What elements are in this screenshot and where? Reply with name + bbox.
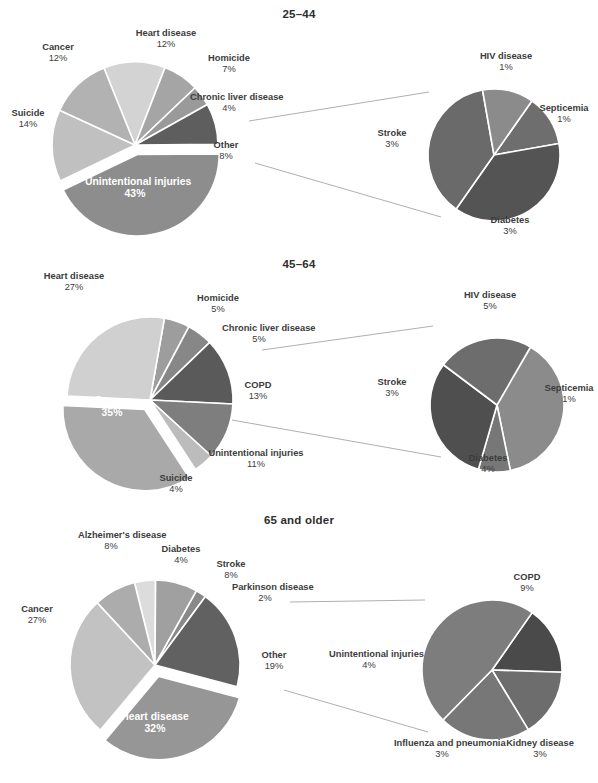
label-heart-disease: Heart disease12% bbox=[121, 28, 211, 50]
label-text: HIV disease bbox=[464, 290, 516, 300]
label-copd: COPD9% bbox=[499, 572, 555, 594]
label-suicide: Suicide14% bbox=[1, 108, 55, 130]
label-text: Stroke bbox=[217, 559, 246, 569]
label-text: Unintentional injuries bbox=[329, 649, 424, 659]
label-text: Alzheimer's disease bbox=[78, 530, 167, 540]
label-percent: 1% bbox=[538, 394, 598, 405]
label-percent: 12% bbox=[27, 53, 89, 64]
label-hiv-disease: HIV disease5% bbox=[450, 290, 530, 312]
label-text: COPD bbox=[514, 572, 541, 582]
main-pie-45-64-slice-heart-disease[interactable] bbox=[67, 317, 164, 400]
label-percent: 1% bbox=[468, 62, 544, 73]
label-percent: 9% bbox=[499, 583, 555, 594]
label-text: Cancer bbox=[21, 604, 53, 614]
label-text: Influenza and pneumonia bbox=[394, 738, 506, 748]
label-text: Diabetes bbox=[469, 453, 508, 463]
label-unintentional-injuries: Unintentional injuries43% bbox=[85, 176, 185, 201]
label-percent: 43% bbox=[85, 188, 185, 200]
label-percent: 5% bbox=[450, 301, 530, 312]
label-chronic-liver-disease: Chronic liver disease5% bbox=[222, 323, 296, 345]
label-kidney-disease: Kidney disease3% bbox=[492, 738, 588, 760]
label-stroke: Stroke3% bbox=[366, 128, 418, 150]
label-percent: 8% bbox=[202, 151, 250, 162]
label-percent: 4% bbox=[190, 103, 268, 114]
leader-line-other-top bbox=[290, 600, 425, 602]
label-copd: COPD13% bbox=[232, 380, 284, 402]
leader-line-other-bottom bbox=[255, 163, 441, 217]
label-percent: 3% bbox=[394, 749, 490, 760]
label-text: Cancer bbox=[94, 395, 129, 406]
label-percent: 4% bbox=[455, 464, 521, 475]
chart-panel-65-and-older: 65 and older Alzheimer's disease8%Diabet… bbox=[0, 510, 598, 783]
chart-panel-45-64: 45–64 Heart disease27%Homicide5%Chronic … bbox=[0, 255, 598, 510]
label-percent: 3% bbox=[492, 749, 588, 760]
label-text: Kidney disease bbox=[506, 738, 574, 748]
label-percent: 19% bbox=[249, 661, 299, 672]
label-text: Heart disease bbox=[136, 28, 196, 38]
label-percent: 3% bbox=[366, 139, 418, 150]
label-septicemia: Septicemia1% bbox=[530, 103, 598, 125]
label-suicide: Suicide4% bbox=[148, 473, 204, 495]
label-text: Suicide bbox=[11, 108, 44, 118]
label-percent: 4% bbox=[151, 555, 211, 566]
label-stroke: Stroke3% bbox=[366, 377, 418, 399]
label-percent: 27% bbox=[8, 615, 66, 626]
label-unintentional-injuries: Unintentional injuries4% bbox=[329, 649, 409, 671]
label-stroke-main: Stroke8% bbox=[203, 559, 259, 581]
label-percent: 2% bbox=[232, 593, 298, 604]
label-percent: 7% bbox=[198, 64, 260, 75]
label-percent: 11% bbox=[196, 459, 316, 470]
label-text: HIV disease bbox=[480, 51, 532, 61]
label-percent: 8% bbox=[203, 570, 259, 581]
label-hiv-disease: HIV disease1% bbox=[468, 51, 544, 73]
label-percent: 14% bbox=[1, 119, 55, 130]
label-percent: 35% bbox=[72, 407, 152, 419]
label-unintentional-injuries: Unintentional injuries11% bbox=[196, 448, 316, 470]
label-homicide: Homicide7% bbox=[198, 53, 260, 75]
label-percent: 1% bbox=[530, 114, 598, 125]
label-cancer: Cancer35% bbox=[72, 395, 152, 420]
label-alzheimers-disease: Alzheimer's disease8% bbox=[78, 530, 144, 552]
label-text: Chronic liver disease bbox=[190, 92, 284, 102]
label-text: Parkinson disease bbox=[232, 582, 314, 592]
label-septicemia: Septicemia1% bbox=[538, 383, 598, 405]
label-diabetes: Diabetes4% bbox=[455, 453, 521, 475]
label-text: Stroke bbox=[378, 128, 407, 138]
label-diabetes: Diabetes3% bbox=[478, 215, 542, 237]
label-influenza-and-pneumonia: Influenza and pneumonia3% bbox=[394, 738, 490, 760]
label-percent: 12% bbox=[121, 39, 211, 50]
label-other: Other19% bbox=[249, 650, 299, 672]
label-text: Heart disease bbox=[121, 711, 189, 722]
label-percent: 5% bbox=[222, 334, 296, 345]
label-text: Unintentional injuries bbox=[208, 448, 303, 458]
chart-panel-25-44: 25–44 Heart disease12%Cancer12%Suicide14… bbox=[0, 0, 598, 255]
label-percent: 4% bbox=[148, 484, 204, 495]
label-percent: 13% bbox=[232, 391, 284, 402]
label-text: Unintentional injuries bbox=[85, 176, 191, 187]
leader-line-other-bottom bbox=[284, 690, 428, 732]
label-text: Chronic liver disease bbox=[222, 323, 316, 333]
label-percent: 4% bbox=[329, 660, 409, 671]
label-percent: 3% bbox=[478, 226, 542, 237]
label-chronic-liver-disease: Chronic liver disease4% bbox=[190, 92, 268, 114]
label-text: Other bbox=[262, 650, 287, 660]
label-text: Heart disease bbox=[44, 271, 104, 281]
label-text: Homicide bbox=[197, 293, 239, 303]
label-heart-disease: Heart disease32% bbox=[110, 711, 200, 736]
label-percent: 5% bbox=[186, 304, 250, 315]
label-homicide: Homicide5% bbox=[186, 293, 250, 315]
label-other: Other8% bbox=[202, 140, 250, 162]
label-percent: 32% bbox=[110, 723, 200, 735]
label-diabetes-main: Diabetes4% bbox=[151, 544, 211, 566]
label-text: COPD bbox=[245, 380, 272, 390]
label-percent: 3% bbox=[366, 388, 418, 399]
label-percent: 27% bbox=[28, 282, 120, 293]
label-text: Cancer bbox=[42, 42, 74, 52]
label-text: Septicemia bbox=[544, 383, 593, 393]
label-heart-disease: Heart disease27% bbox=[28, 271, 120, 293]
label-text: Suicide bbox=[159, 473, 192, 483]
label-cancer: Cancer12% bbox=[27, 42, 89, 64]
label-text: Homicide bbox=[208, 53, 250, 63]
label-parkinson-disease: Parkinson disease2% bbox=[232, 582, 298, 604]
label-text: Other bbox=[214, 140, 239, 150]
